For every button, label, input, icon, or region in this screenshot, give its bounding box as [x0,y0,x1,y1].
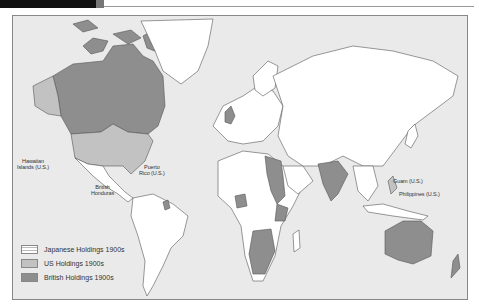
australia [385,221,433,264]
legend-label-british: British Holdings 1900s [44,274,114,281]
indonesia [363,204,428,220]
asia [273,46,458,166]
world-map: Hawaiian Islands (U.S.) British Honduras… [12,15,468,300]
madagascar [293,230,300,252]
west-africa [235,194,247,208]
legend-swatch-japanese [21,245,38,254]
legend-item-us: US Holdings 1900s [21,256,125,270]
label-philippines: Philippines (U.S.) [399,191,440,197]
label-puerto-rico: Puerto Rico (U.S.) [139,164,165,176]
header-bar [0,0,96,8]
legend-swatch-us [21,259,38,268]
legend-swatch-british [21,273,38,282]
canada-region [53,44,165,134]
southern-africa [249,229,275,274]
legend-label-japanese: Japanese Holdings 1900s [44,246,125,253]
legend-item-british: British Holdings 1900s [21,270,125,284]
header-tab [96,0,104,8]
india [318,161,348,201]
europe [213,86,283,144]
legend-item-japanese: Japanese Holdings 1900s [21,242,125,256]
label-guam: Guam (U.S.) [393,178,423,184]
new-zealand [451,254,460,278]
map-legend: Japanese Holdings 1900s US Holdings 1900… [21,242,125,284]
legend-label-us: US Holdings 1900s [44,260,104,267]
south-america [131,194,188,296]
header-rule [104,6,474,7]
label-hawaii: Hawaiian Islands (U.S.) [17,158,49,170]
label-british-honduras: British Honduras [91,184,114,196]
southeast-asia [353,166,378,201]
